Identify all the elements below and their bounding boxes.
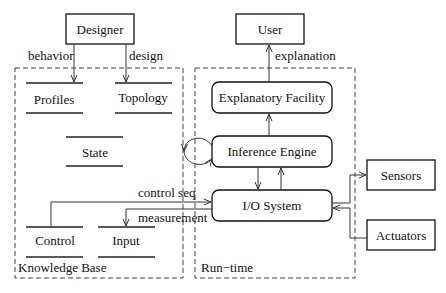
profiles-label: Profiles [34, 92, 74, 107]
topology-store[interactable]: Topology [115, 83, 172, 113]
user-label: User [258, 22, 283, 37]
inference-engine-node[interactable]: Inference Engine [212, 136, 332, 167]
io-to-sensors-arrow [332, 175, 366, 203]
control-store[interactable]: Control [26, 227, 83, 257]
control-seq-edge-label: control seq [138, 185, 196, 200]
sensors-node[interactable]: Sensors [367, 160, 435, 190]
inference-self-loop-bottom [184, 151, 212, 164]
actuators-to-io-arrow [333, 208, 367, 238]
io-system-node[interactable]: I/O System [212, 190, 332, 221]
behavior-edge-label: behavior [28, 48, 74, 63]
run-time-label: Run−time [201, 260, 253, 275]
io-system-label: I/O System [243, 198, 302, 213]
inference-engine-label: Inference Engine [227, 144, 316, 159]
designer-node[interactable]: Designer [66, 14, 134, 44]
state-label: State [82, 145, 108, 160]
inference-self-loop-top [184, 138, 212, 151]
control-label: Control [35, 233, 75, 248]
explanation-edge-label: explanation [275, 48, 336, 63]
designer-label: Designer [77, 22, 125, 37]
explanatory-facility-label: Explanatory Facility [219, 90, 326, 105]
profiles-store[interactable]: Profiles [26, 83, 83, 113]
state-store[interactable]: State [66, 137, 123, 166]
architecture-diagram: Knowledge Base Run−time Designer User be… [0, 0, 446, 293]
user-node[interactable]: User [236, 14, 304, 44]
explanatory-facility-node[interactable]: Explanatory Facility [212, 82, 332, 113]
knowledge-base-label: Knowledge Base [18, 260, 107, 275]
measurement-edge-label: measurement [138, 210, 208, 225]
input-label: Input [112, 233, 140, 248]
input-store[interactable]: Input [98, 227, 155, 257]
sensors-label: Sensors [381, 168, 421, 183]
actuators-node[interactable]: Actuators [367, 220, 435, 250]
actuators-label: Actuators [376, 228, 427, 243]
design-edge-label: design [129, 48, 163, 63]
topology-label: Topology [118, 90, 168, 105]
